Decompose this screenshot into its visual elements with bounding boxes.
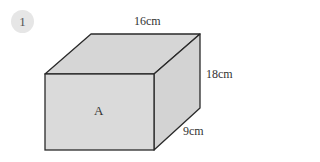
face-label-a: A bbox=[94, 103, 103, 119]
depth-label: 9cm bbox=[183, 124, 204, 139]
length-label: 16cm bbox=[134, 14, 161, 29]
height-label: 18cm bbox=[206, 67, 233, 82]
